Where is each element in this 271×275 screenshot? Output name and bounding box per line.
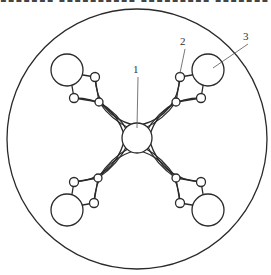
large-terminal-circle [51,194,83,226]
small-junction-node [197,178,206,187]
small-junction-node [172,174,180,182]
leader-line [180,49,185,73]
small-junction-node [176,199,185,208]
large-terminal-circle [192,54,224,86]
small-junction-node [91,73,100,82]
small-junction-node [95,98,103,106]
petal-top-left [51,54,133,134]
small-junction-node [197,94,206,103]
leader-line [137,77,138,128]
small-junction-node [90,199,99,208]
large-terminal-circle [51,54,83,86]
callout-label-3: 3 [243,30,249,42]
small-junction-node [70,94,79,103]
small-junction-node [94,174,102,182]
petal-bottom-left [51,142,133,226]
small-junction-node [70,178,79,187]
petal-inner-arc [99,102,128,132]
callout-label-1: 1 [133,63,139,75]
large-terminal-circle [192,194,224,226]
small-junction-node [172,98,180,106]
callout-label-2: 2 [180,35,186,47]
petal-top-right [141,54,224,134]
label-layer: 123 [133,30,249,128]
petal-inner-arc [146,102,176,132]
small-junction-node [176,73,185,82]
petal-bottom-right [141,142,224,226]
diagram-canvas: 123 [0,0,271,275]
